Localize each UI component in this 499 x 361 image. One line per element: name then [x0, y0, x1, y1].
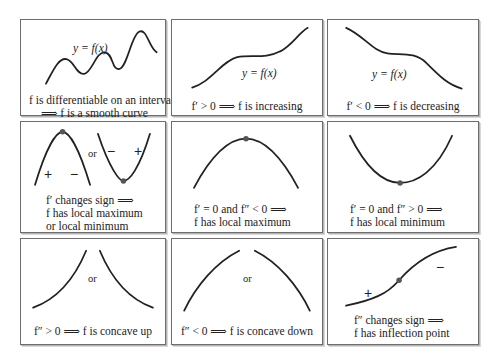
panel-caption-line2: f has inflection point	[354, 327, 478, 340]
panel-caption-line2: f has local maximum	[46, 207, 165, 220]
panel-caption-line3: or local minimum	[46, 220, 165, 233]
local-min-point	[121, 178, 127, 184]
panel-caption: f″ < 0 ⟹ f is concave down	[172, 325, 322, 338]
minus-sign: −	[70, 166, 78, 182]
function-label: y = f(x)	[73, 42, 108, 54]
panel-sign-change: or + − − + f′ changes sign ⟹ f has local…	[20, 121, 166, 233]
panel-caption-line2: f has local minimum	[350, 216, 478, 229]
local-min-point	[397, 180, 403, 186]
panel-smooth-curve: y = f(x) f is differentiable on an inter…	[20, 19, 166, 116]
function-label: y = f(x)	[372, 68, 407, 80]
or-label: or	[243, 273, 252, 284]
panel-caption-line2: ⟹ f is a smooth curve	[41, 107, 165, 120]
panel-caption-line1: f is differentiable on an interval	[29, 94, 165, 107]
panel-caption-line1: f′ = 0 and f″ < 0 ⟹	[194, 203, 322, 216]
local-max-point	[243, 136, 249, 142]
panel-inflection: + − f″ changes sign ⟹ f has inflection p…	[327, 238, 479, 345]
panel-local-max: f′ = 0 and f″ < 0 ⟹ f has local maximum	[171, 121, 323, 233]
plus-sign: +	[44, 166, 52, 182]
or-label: or	[88, 273, 97, 284]
panel-caption-line1: f″ changes sign ⟹	[354, 314, 478, 327]
function-label: y = f(x)	[242, 67, 277, 79]
minus-sign: −	[436, 259, 444, 275]
minus-sign: −	[107, 143, 115, 159]
panel-increasing: y = f(x) f′ > 0 ⟹ f is increasing	[171, 19, 323, 116]
panel-local-min: f′ = 0 and f″ > 0 ⟹ f has local minimum	[327, 121, 479, 233]
panel-caption: f″ > 0 ⟹ f is concave up	[21, 325, 165, 338]
panel-concave-down: or f″ < 0 ⟹ f is concave down	[171, 238, 323, 345]
local-max-point	[60, 129, 66, 135]
panel-concave-up: or f″ > 0 ⟹ f is concave up	[20, 238, 166, 345]
panel-caption-line1: f′ = 0 and f″ > 0 ⟹	[350, 203, 478, 216]
panel-decreasing: y = f(x) f′ < 0 ⟹ f is decreasing	[327, 19, 479, 116]
panel-caption: f′ > 0 ⟹ f is increasing	[172, 100, 322, 113]
plus-sign: +	[134, 143, 142, 159]
panel-caption-line1: f′ changes sign ⟹	[46, 194, 165, 207]
panel-caption: f′ < 0 ⟹ f is decreasing	[328, 100, 478, 113]
inflection-point	[396, 277, 401, 282]
or-label: or	[88, 148, 97, 159]
plus-sign: +	[364, 285, 372, 301]
panel-caption-line2: f has local maximum	[194, 216, 322, 229]
